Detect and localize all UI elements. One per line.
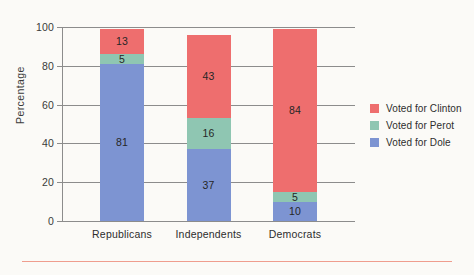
bar-value-label: 16 [202, 128, 214, 139]
bar-independents[interactable]: 431637 [187, 35, 231, 221]
gridline-100: 100 [62, 27, 355, 28]
bar-value-label: 37 [202, 180, 214, 191]
chart-figure: Percentage 020406080100 1358143163784510… [0, 0, 474, 275]
bar-segment[interactable]: 5 [273, 192, 317, 202]
bar-segment[interactable]: 84 [273, 29, 317, 192]
bottom-decorative-rule [22, 261, 452, 263]
legend-item[interactable]: Voted for Dole [370, 135, 462, 150]
plot-area: 020406080100 1358143163784510 Republican… [62, 27, 355, 221]
bar-segment[interactable]: 10 [273, 202, 317, 221]
y-tick-60 [57, 105, 62, 106]
bar-value-label: 10 [289, 206, 301, 217]
bar-value-label: 43 [202, 71, 214, 82]
legend-label: Voted for Dole [386, 137, 451, 148]
y-tick-label-100: 100 [36, 21, 54, 33]
y-axis-line [62, 27, 63, 222]
x-axis-label-independents: Independents [175, 228, 241, 240]
bar-segment[interactable]: 81 [100, 64, 144, 221]
bar-segment[interactable]: 43 [187, 35, 231, 118]
legend-label: Voted for Perot [386, 120, 454, 131]
y-tick-100 [57, 27, 62, 28]
y-tick-label-0: 0 [48, 215, 54, 227]
y-tick-40 [57, 143, 62, 144]
bar-value-label: 84 [289, 105, 301, 116]
bar-segment[interactable]: 13 [100, 29, 144, 54]
y-tick-20 [57, 182, 62, 183]
legend-label: Voted for Clinton [386, 103, 462, 114]
bar-value-label: 5 [292, 192, 298, 203]
legend-swatch-icon [370, 138, 379, 147]
legend-swatch-icon [370, 121, 379, 130]
legend-item[interactable]: Voted for Clinton [370, 101, 462, 116]
bar-segment[interactable]: 16 [187, 118, 231, 149]
bar-value-label: 5 [119, 54, 125, 65]
legend-item[interactable]: Voted for Perot [370, 118, 462, 133]
y-axis-title: Percentage [14, 66, 26, 124]
y-tick-80 [57, 66, 62, 67]
y-tick-label-60: 60 [42, 99, 54, 111]
bar-value-label: 13 [116, 36, 128, 47]
y-tick-label-20: 20 [42, 176, 54, 188]
y-tick-0 [57, 221, 62, 222]
bar-segment[interactable]: 5 [100, 54, 144, 64]
bar-democrats[interactable]: 84510 [273, 29, 317, 221]
bar-segment[interactable]: 37 [187, 149, 231, 221]
x-axis-label-democrats: Democrats [269, 228, 322, 240]
gridline-0: 0 [62, 221, 355, 222]
y-tick-label-80: 80 [42, 60, 54, 72]
legend: Voted for ClintonVoted for PerotVoted fo… [370, 101, 462, 152]
y-tick-label-40: 40 [42, 137, 54, 149]
bar-value-label: 81 [116, 137, 128, 148]
legend-swatch-icon [370, 104, 379, 113]
x-axis-label-republicans: Republicans [92, 228, 152, 240]
bar-republicans[interactable]: 13581 [100, 29, 144, 221]
